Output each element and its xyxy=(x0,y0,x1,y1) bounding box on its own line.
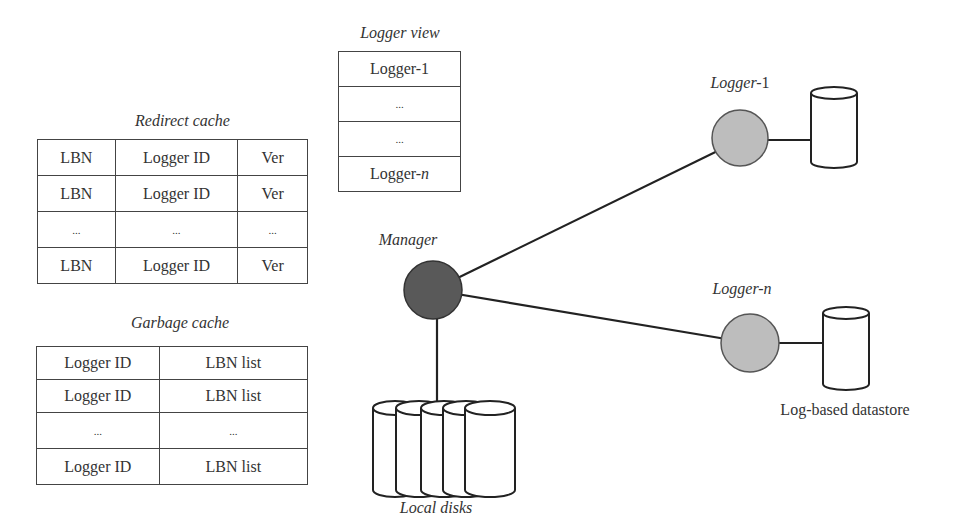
local-disks-label: Local disks xyxy=(399,499,472,516)
logger-n-label: Logger-n xyxy=(711,280,771,298)
logger-1-datastore-cylinder-icon xyxy=(811,87,857,168)
manager-node xyxy=(404,261,462,319)
logger-n-label-prefix: Logger- xyxy=(711,280,763,298)
local-disks-group xyxy=(373,401,515,497)
logger-1-label-prefix: Logger- xyxy=(709,74,761,92)
logger-n-label-suffix: n xyxy=(764,280,772,297)
logger-1-label: Logger-1 xyxy=(709,74,769,92)
logger-n-node xyxy=(721,314,779,372)
network-diagram: Manager Logger-1 Logger-n Log-based data… xyxy=(0,0,963,531)
datastore-label: Log-based datastore xyxy=(780,401,909,419)
manager-to-logger-1-link xyxy=(433,140,740,290)
logger-1-label-suffix: 1 xyxy=(762,74,770,91)
local-disk-cylinder-icon xyxy=(465,401,515,497)
manager-to-logger-n-link xyxy=(433,290,750,343)
logger-1-node xyxy=(712,110,768,166)
manager-label: Manager xyxy=(378,231,438,249)
logger-n-datastore-cylinder-icon xyxy=(823,307,869,390)
